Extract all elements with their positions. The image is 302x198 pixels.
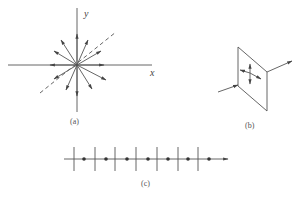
panel-b [218, 47, 292, 111]
vibration-arrows [50, 34, 106, 96]
plane [238, 47, 267, 111]
caption-a: (a) [70, 117, 79, 126]
panel-c [64, 147, 228, 171]
incoming-ray [218, 85, 238, 92]
outgoing-ray [267, 61, 292, 72]
panel-a [8, 8, 152, 112]
polarization-figure: y x (a) (b) (c [0, 0, 302, 198]
caption-c: (c) [141, 179, 150, 188]
x-axis-label: x [149, 67, 155, 78]
y-axis-label: y [83, 8, 89, 19]
caption-b: (b) [245, 121, 255, 130]
